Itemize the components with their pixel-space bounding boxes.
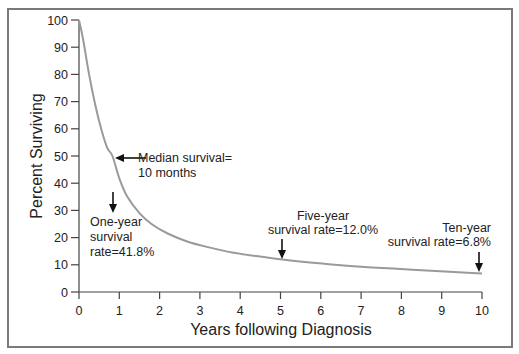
y-tick-label: 30 [54,204,68,218]
y-tick-label: 80 [54,68,68,82]
y-tick-label: 90 [54,41,68,55]
x-axis-title: Years following Diagnosis [190,321,372,338]
y-tick-label: 10 [54,258,68,272]
annotation-text: survival rate=6.8% [388,235,491,249]
chart-frame [8,9,512,347]
annotation-text: survival [90,230,132,244]
y-tick-label: 40 [54,177,68,191]
y-tick-label: 60 [54,122,68,136]
x-tick-label: 8 [398,304,405,318]
arrowhead-icon [109,204,117,213]
annotation-five-year: Five-year survival rate=12.0% [268,209,378,259]
annotation-text: survival rate=12.0% [268,223,378,237]
annotation-text: One-year [90,215,142,229]
x-tick-label: 6 [317,304,324,318]
annotation-median: Median survival= 10 months [115,151,232,180]
arrowhead-icon [475,263,483,272]
survival-chart: 0102030405060708090100012345678910 Years… [0,0,519,354]
x-tick-label: 5 [277,304,284,318]
arrowhead-icon [278,250,286,259]
annotation-text: Ten-year [442,221,491,235]
x-tick-label: 4 [237,304,244,318]
y-tick-label: 50 [54,150,68,164]
y-tick-label: 20 [54,231,68,245]
annotation-one-year: One-year survival rate=41.8% [90,192,154,259]
y-axis-title: Percent Surviving [28,93,45,218]
y-tick-label: 0 [61,286,68,300]
arrowhead-icon [115,154,124,162]
axes: 0102030405060708090100012345678910 [47,14,489,319]
y-tick-label: 70 [54,95,68,109]
annotation-text: 10 months [138,166,196,180]
annotation-text: Median survival= [138,151,232,165]
x-tick-label: 1 [116,304,123,318]
x-tick-label: 2 [156,304,163,318]
x-tick-label: 0 [76,304,83,318]
x-tick-label: 3 [196,304,203,318]
annotation-text: Five-year [297,209,349,223]
annotation-text: rate=41.8% [90,245,154,259]
x-tick-label: 9 [438,304,445,318]
annotation-ten-year: Ten-year survival rate=6.8% [388,221,491,272]
y-tick-label: 100 [47,14,68,28]
x-tick-label: 10 [475,304,489,318]
x-tick-label: 7 [358,304,365,318]
